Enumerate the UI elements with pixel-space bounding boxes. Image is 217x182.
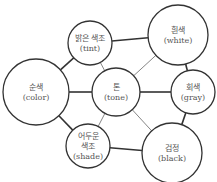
node-circle-white xyxy=(148,5,208,65)
edge-tint-tone xyxy=(100,62,104,70)
node-circle-tone xyxy=(92,68,140,116)
edge-black-tone xyxy=(132,110,151,131)
node-label-color: 순색 xyxy=(29,82,43,92)
node-tone: 톤(tone) xyxy=(92,68,140,116)
edge-shade-tone xyxy=(98,113,105,126)
node-label-tint: (tint) xyxy=(80,44,100,53)
node-label-tint: 밝은 색조 xyxy=(75,33,106,43)
node-white: 흰색(white) xyxy=(148,5,208,65)
color-tone-diagram: 밝은 색조(tint)흰색(white)순색(color)톤(tone)회색(g… xyxy=(0,0,217,182)
node-circle-tint xyxy=(68,21,112,65)
node-label-shade: 색조 xyxy=(81,141,95,151)
node-tint: 밝은 색조(tint) xyxy=(68,21,112,65)
node-label-gray: 회색 xyxy=(186,82,200,92)
node-label-tone: 톤 xyxy=(113,83,120,92)
node-shade: 어두운색조(shade) xyxy=(66,124,110,168)
node-label-shade: (shade) xyxy=(73,152,103,161)
edge-shade-black xyxy=(110,148,142,151)
edge-color-shade xyxy=(59,116,73,130)
edge-gray-black xyxy=(182,113,186,125)
node-label-white: 흰색 xyxy=(171,25,185,35)
node-label-tone: (tone) xyxy=(104,93,128,102)
edge-white-tone xyxy=(134,55,156,75)
edge-white-gray xyxy=(186,64,188,71)
edge-tint-white xyxy=(112,38,148,41)
node-gray: 회색(gray) xyxy=(171,70,215,114)
node-black: 검정(black) xyxy=(142,123,202,182)
edge-tint-color xyxy=(60,58,73,70)
diagram-nodes: 밝은 색조(tint)흰색(white)순색(color)톤(tone)회색(g… xyxy=(3,5,215,182)
node-label-color: (color) xyxy=(23,93,50,102)
node-label-shade: 어두운 xyxy=(78,131,99,141)
node-label-black: (black) xyxy=(158,154,186,163)
node-label-gray: (gray) xyxy=(181,93,205,102)
node-label-black: 검정 xyxy=(165,143,179,153)
node-label-white: (white) xyxy=(164,36,193,45)
node-circle-gray xyxy=(171,70,215,114)
node-color: 순색(color) xyxy=(3,59,69,125)
node-circle-color xyxy=(3,59,69,125)
